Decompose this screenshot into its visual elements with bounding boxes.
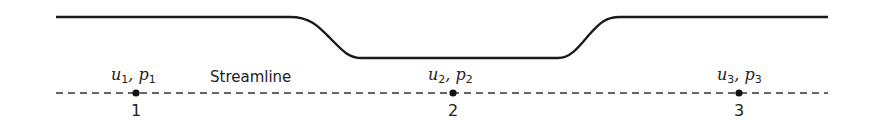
point-2-variables: u2, p2: [428, 67, 473, 85]
subscript: 1: [149, 73, 156, 86]
velocity-symbol: u: [111, 65, 121, 84]
subscript: 2: [466, 73, 473, 86]
pressure-symbol: p: [139, 65, 149, 84]
point-1-marker: [132, 89, 139, 96]
point-2-marker: [449, 89, 456, 96]
velocity-symbol: u: [428, 65, 438, 84]
point-3-variables: u3, p3: [717, 67, 762, 85]
pipe-wall: [56, 17, 828, 58]
point-1-label: 1: [131, 103, 141, 119]
point-2-label: 2: [448, 103, 458, 119]
velocity-symbol: u: [717, 65, 727, 84]
separator: ,: [128, 65, 133, 84]
pressure-symbol: p: [745, 65, 755, 84]
pressure-symbol: p: [456, 65, 466, 84]
subscript: 3: [755, 73, 762, 86]
point-3-label: 3: [734, 103, 744, 119]
streamline-label: Streamline: [210, 70, 291, 85]
point-3-marker: [735, 89, 742, 96]
separator: ,: [445, 65, 450, 84]
separator: ,: [734, 65, 739, 84]
point-1-variables: u1, p1: [111, 67, 156, 85]
